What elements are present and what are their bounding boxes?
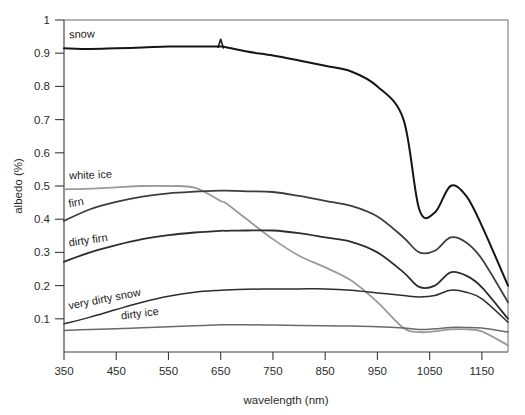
chart-canvas: 35045055065075085095010501150 0.10.20.30… <box>0 0 525 415</box>
series-line-firn: firn <box>64 191 508 303</box>
series-line-white-ice: white ice <box>64 186 508 346</box>
curve-label-firn: firn <box>67 195 84 210</box>
y-tick-label: 0.6 <box>34 147 50 159</box>
y-axis-title: albedo (%) <box>12 158 24 214</box>
albedo-spectral-chart: 35045055065075085095010501150 0.10.20.30… <box>0 0 525 415</box>
y-axis-ticks <box>55 20 64 319</box>
x-axis-tick-labels: 35045055065075085095010501150 <box>54 365 494 377</box>
x-tick-label: 450 <box>107 365 126 377</box>
x-tick-label: 750 <box>263 365 282 377</box>
x-tick-label: 1150 <box>470 365 495 377</box>
y-tick-label: 0.4 <box>34 213 51 225</box>
curve-label-snow: snow <box>69 27 95 40</box>
curve-label-white-ice: white ice <box>68 168 112 182</box>
series-line-snow: snow <box>64 46 508 285</box>
x-tick-label: 1050 <box>417 365 443 377</box>
y-tick-label: 1 <box>44 14 50 26</box>
x-tick-label: 950 <box>368 365 387 377</box>
x-axis-ticks <box>64 352 482 360</box>
y-tick-label: 0.7 <box>34 114 50 126</box>
x-tick-label: 350 <box>54 365 73 377</box>
y-tick-label: 0.9 <box>34 47 50 59</box>
curve-label-dirty-firn: dirty firn <box>68 231 108 248</box>
y-axis-tick-labels: 0.10.20.30.40.50.60.70.80.91 <box>34 14 51 325</box>
y-tick-label: 0.3 <box>34 246 50 258</box>
y-tick-label: 0.1 <box>34 313 50 325</box>
x-axis-title: wavelength (nm) <box>242 394 328 406</box>
y-tick-label: 0.8 <box>34 80 50 92</box>
y-tick-label: 0.5 <box>34 180 50 192</box>
y-tick-label: 0.2 <box>34 280 50 292</box>
series-inline-labels: snowwhite icefirndirty firnvery dirty sn… <box>67 27 159 321</box>
x-tick-label: 650 <box>211 365 230 377</box>
x-tick-label: 550 <box>159 365 178 377</box>
x-tick-label: 850 <box>316 365 335 377</box>
